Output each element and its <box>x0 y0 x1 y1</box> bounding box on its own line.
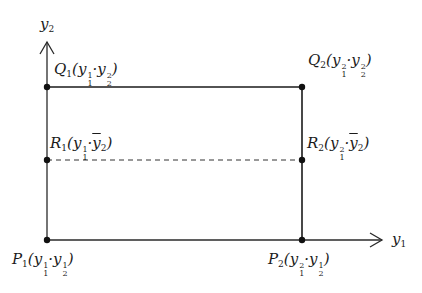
label-q1: Q1(y11·y22) <box>54 62 118 88</box>
point-p1 <box>44 237 50 243</box>
point-q1 <box>44 84 50 90</box>
label-r1: R1(y11·y2) <box>50 136 112 162</box>
label-r2: R2(y21·y2) <box>307 136 369 162</box>
label-p2: P2(y21·y12) <box>268 252 329 278</box>
label-q2: Q2(y21·y22) <box>308 53 372 79</box>
y1-axis-label: y1 <box>392 232 406 249</box>
point-p2 <box>299 237 305 243</box>
point-q2 <box>299 84 305 90</box>
point-r2 <box>299 157 305 163</box>
label-p1: P1(y11·y12) <box>12 252 73 278</box>
y2-axis-label: y2 <box>40 17 54 34</box>
